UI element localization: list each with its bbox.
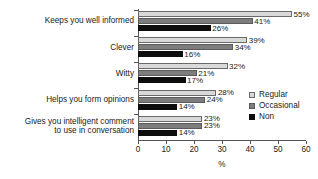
bar-regular: [138, 116, 202, 122]
bar-value-label: 16%: [184, 51, 200, 59]
legend-swatch-non: [249, 114, 255, 120]
bar-value-label: 24%: [207, 96, 223, 104]
legend-item-non: Non: [249, 111, 300, 122]
x-tick-label: 30: [210, 145, 234, 154]
x-tick: [138, 141, 139, 144]
bar-value-label: 17%: [187, 77, 203, 85]
legend-label: Non: [259, 112, 274, 121]
bar-value-label: 32%: [229, 63, 245, 71]
bar-value-label: 14%: [179, 129, 195, 137]
x-tick-label: 40: [238, 145, 262, 154]
x-tick: [194, 141, 195, 144]
bar-regular: [138, 63, 228, 69]
bar-occasional: [138, 18, 253, 24]
bar-non: [138, 25, 211, 31]
category-label: Witty: [0, 69, 134, 78]
legend-swatch-regular: [249, 92, 255, 98]
x-tick: [306, 141, 307, 144]
legend-item-regular: Regular: [249, 89, 300, 100]
x-tick-label: 60: [294, 145, 318, 154]
x-tick-label: 0: [126, 145, 150, 154]
x-tick: [278, 141, 279, 144]
legend-item-occasional: Occasional: [249, 100, 300, 111]
bar-value-label: 23%: [204, 122, 220, 130]
legend: RegularOccasionalNon: [249, 89, 300, 122]
bar-value-label: 14%: [179, 103, 195, 111]
bar-value-label: 39%: [249, 37, 265, 45]
legend-swatch-occasional: [249, 103, 255, 109]
bar-value-label: 34%: [235, 44, 251, 52]
bar-chart: Keeps you well informedCleverWittyHelps …: [0, 0, 318, 179]
category-label: Keeps you well informed: [0, 16, 134, 25]
bar-non: [138, 130, 177, 136]
category-label: Clever: [0, 43, 134, 52]
x-tick: [222, 141, 223, 144]
legend-label: Regular: [259, 90, 288, 99]
x-tick: [250, 141, 251, 144]
category-label: Gives you intelligent comment to use in …: [0, 117, 134, 136]
legend-label: Occasional: [259, 101, 300, 110]
category-axis-labels: Keeps you well informedCleverWittyHelps …: [0, 0, 136, 179]
x-tick-label: 10: [154, 145, 178, 154]
bar-regular: [138, 37, 247, 43]
bar-value-label: 41%: [254, 18, 270, 26]
bar-value-label: 55%: [294, 11, 310, 19]
bar-non: [138, 51, 183, 57]
x-axis-title: %: [202, 160, 242, 169]
x-tick: [166, 141, 167, 144]
x-tick-label: 20: [182, 145, 206, 154]
bar-non: [138, 77, 186, 83]
bar-regular: [138, 90, 216, 96]
bar-value-label: 26%: [212, 25, 228, 33]
category-label: Helps you form opinions: [0, 95, 134, 104]
x-tick-label: 50: [266, 145, 290, 154]
bar-non: [138, 104, 177, 110]
bar-occasional: [138, 97, 205, 103]
